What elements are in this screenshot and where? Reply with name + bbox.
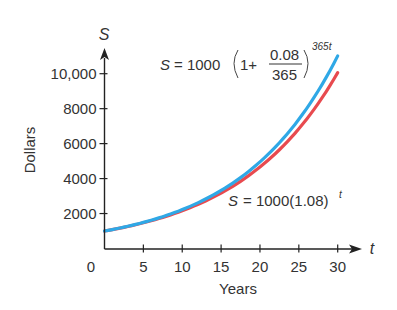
x-axis-label: Years: [219, 280, 257, 297]
svg-text:0.08: 0.08: [270, 46, 299, 63]
y-ticks: 200040006000800010,000: [51, 65, 108, 222]
svg-text:S: S: [160, 56, 170, 73]
y-tick-label: 6000: [63, 135, 96, 152]
svg-text:t: t: [339, 189, 343, 200]
formula-annual-compounding: S = 1000(1.08) t: [228, 189, 343, 209]
x-axis-variable: t: [370, 240, 375, 257]
svg-text:365: 365: [272, 66, 297, 83]
right-paren: [304, 50, 308, 78]
left-paren: [234, 50, 238, 78]
x-tick-label: 0: [87, 258, 95, 275]
y-tick-label: 8000: [63, 100, 96, 117]
x-tick-label: 25: [290, 258, 307, 275]
svg-text:S: S: [228, 192, 238, 209]
svg-text:365t: 365t: [312, 41, 333, 52]
x-tick-label: 20: [252, 258, 269, 275]
y-axis-label: Dollars: [21, 127, 38, 174]
y-tick-label: 2000: [63, 205, 96, 222]
x-tick-label: 5: [139, 258, 147, 275]
svg-text:1+: 1+: [240, 56, 257, 73]
y-tick-label: 10,000: [51, 65, 97, 82]
x-tick-label: 30: [329, 258, 346, 275]
x-tick-label: 10: [174, 258, 191, 275]
x-tick-label: 15: [213, 258, 230, 275]
svg-text:= 1000(1.08): = 1000(1.08): [243, 192, 328, 209]
svg-text:= 1000: = 1000: [174, 56, 220, 73]
chart: 051015202530 200040006000800010,000 S t …: [0, 0, 397, 310]
formula-daily-compounding: S = 1000 1+ 0.08 365 365t: [160, 41, 333, 83]
y-tick-label: 4000: [63, 170, 96, 187]
y-axis-variable: S: [99, 26, 110, 43]
